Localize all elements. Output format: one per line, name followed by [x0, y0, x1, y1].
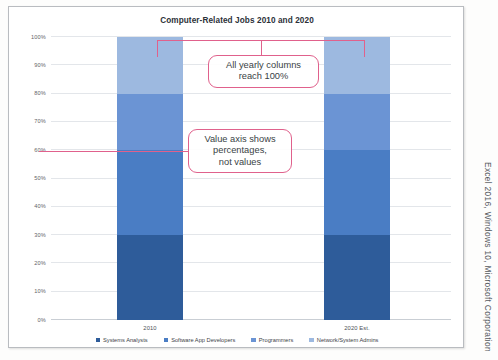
legend-swatch-programmers [251, 338, 256, 343]
bracket-left-tick [157, 40, 158, 57]
gridline-50: 50% [51, 178, 451, 179]
legend-label-systems-analysts: Systems Analysts [103, 337, 148, 343]
chart-title: Computer-Related Jobs 2010 and 2020 [9, 16, 465, 25]
legend-item-systems-analysts[interactable]: Systems Analysts [96, 337, 148, 343]
annotation-reach-100: All yearly columns reach 100% [208, 55, 319, 88]
annotation-value-axis-line2: percentages, [196, 145, 284, 156]
gridline-10: 10% [51, 291, 451, 292]
y-axis-tick-40: 40% [34, 203, 46, 209]
source-credit: Excel 2016, Windows 10, Microsoft Corpor… [483, 162, 493, 352]
annotation-reach-100-line2: reach 100% [216, 71, 311, 82]
legend-item-network-system-admins[interactable]: Network/System Admins [309, 337, 378, 343]
legend-label-programmers: Programmers [259, 337, 293, 343]
y-axis-tick-50: 50% [34, 175, 46, 181]
bracket-stem-line [261, 40, 262, 55]
bar-column-2010[interactable]: 2010 [117, 37, 183, 320]
bar-segment-systems-analysts[interactable] [324, 235, 390, 320]
gridline-30: 30% [51, 234, 451, 235]
legend-swatch-software-app-developers [164, 338, 169, 343]
bar-segment-software-app-developers[interactable] [324, 150, 390, 235]
gridline-20: 20% [51, 262, 451, 263]
chart-legend: Systems AnalystsSoftware App DevelopersP… [9, 337, 465, 343]
y-axis-tick-90: 90% [34, 62, 46, 68]
gridline-0: 0% [51, 319, 451, 320]
y-axis-tick-80: 80% [34, 90, 46, 96]
gridline-70: 70% [51, 121, 451, 122]
x-axis-label-1: 2020 Est. [324, 325, 390, 331]
bar-segment-software-app-developers[interactable] [117, 150, 183, 235]
legend-label-software-app-developers: Software App Developers [171, 337, 235, 343]
x-axis-label-0: 2010 [117, 325, 183, 331]
bar-segment-programmers[interactable] [324, 94, 390, 151]
chart-frame: Computer-Related Jobs 2010 and 2020 0%10… [8, 6, 464, 348]
page-background: Computer-Related Jobs 2010 and 2020 0%10… [0, 0, 498, 360]
y-axis-tick-30: 30% [34, 232, 46, 238]
gridline-100: 100% [51, 36, 451, 37]
bar-segment-systems-analysts[interactable] [117, 235, 183, 320]
bracket-right-tick [364, 40, 365, 57]
gridline-40: 40% [51, 206, 451, 207]
legend-item-programmers[interactable]: Programmers [251, 337, 293, 343]
bar-segment-network-system-admins[interactable] [324, 37, 390, 94]
bar-column-2020-est[interactable]: 2020 Est. [324, 37, 390, 320]
bar-segment-network-system-admins[interactable] [117, 37, 183, 94]
annotation-value-axis: Value axis shows percentages, not values [188, 129, 292, 173]
legend-swatch-network-system-admins [309, 338, 314, 343]
y-axis-tick-0: 0% [38, 317, 47, 323]
legend-item-software-app-developers[interactable]: Software App Developers [164, 337, 236, 343]
y-axis-tick-70: 70% [34, 118, 46, 124]
legend-label-network-system-admins: Network/System Admins [317, 337, 379, 343]
bar-segment-programmers[interactable] [117, 94, 183, 151]
annotation-value-axis-line3: not values [196, 157, 284, 168]
y-axis-tick-100: 100% [31, 34, 46, 40]
annotation-value-axis-line1: Value axis shows [196, 134, 284, 145]
annotation-reach-100-line1: All yearly columns [216, 60, 311, 71]
value-axis-leader-line [39, 151, 189, 152]
gridline-80: 80% [51, 93, 451, 94]
legend-swatch-systems-analysts [96, 338, 101, 343]
y-axis-tick-20: 20% [34, 260, 46, 266]
y-axis-tick-10: 10% [34, 288, 46, 294]
